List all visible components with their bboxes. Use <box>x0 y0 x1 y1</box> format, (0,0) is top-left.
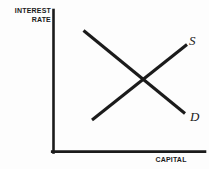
supply-curve-label: S <box>189 33 196 49</box>
demand-curve-label: D <box>190 109 199 125</box>
y-axis-label-line-1: INTEREST <box>0 7 51 16</box>
y-axis-label: INTEREST RATE <box>0 7 51 24</box>
supply-curve <box>92 45 187 121</box>
demand-curve <box>84 31 186 114</box>
x-axis-label: CAPITAL <box>140 156 202 165</box>
plot-area <box>0 0 209 169</box>
supply-demand-capital-market-figure: INTEREST RATE CAPITAL S D <box>0 0 209 169</box>
y-axis-label-line-2: RATE <box>0 16 51 25</box>
